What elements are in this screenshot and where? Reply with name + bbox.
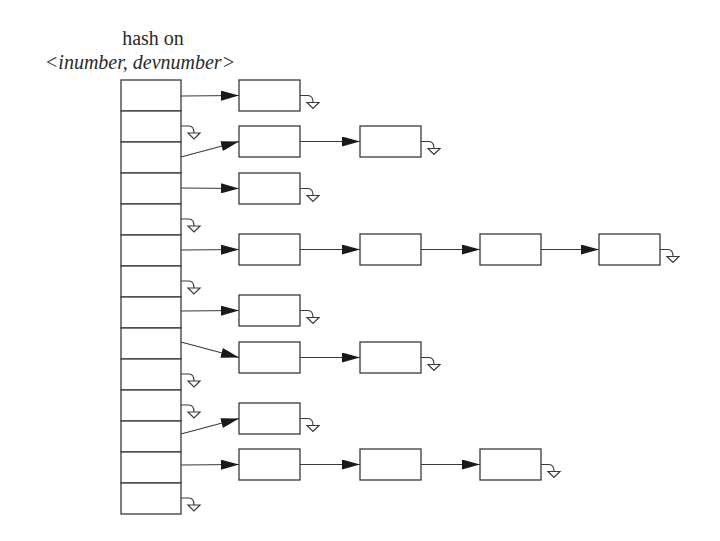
inode-node <box>480 449 541 480</box>
null-pointer-ground-icon <box>660 250 679 263</box>
null-pointer-ground-icon <box>300 189 319 202</box>
hash-bucket-slot <box>121 421 181 452</box>
inode-node <box>239 449 300 480</box>
null-pointer-ground-icon <box>421 358 440 371</box>
hash-bucket-slot <box>121 235 181 266</box>
hash-chains <box>181 80 679 480</box>
hash-bucket-slot <box>121 204 181 235</box>
inode-node <box>239 126 300 157</box>
hash-bucket-slot <box>121 111 181 142</box>
bucket-chain <box>181 295 319 326</box>
hash-bucket-slot <box>121 390 181 421</box>
hash-bucket-slot <box>121 142 181 173</box>
null-pointer-ground-icon <box>181 219 200 232</box>
inode-node <box>239 80 300 111</box>
bucket-chain <box>181 126 440 157</box>
inode-node <box>360 234 421 265</box>
hash-bucket-slot <box>121 328 181 359</box>
bucket-chain <box>181 173 319 204</box>
inode-node <box>239 295 300 326</box>
null-pointer-ground-icon <box>421 142 440 155</box>
bucket-chain <box>181 234 679 265</box>
hash-bucket-slot <box>121 80 181 111</box>
inode-node <box>239 403 300 434</box>
null-pointer-ground-icon <box>300 96 319 109</box>
hash-bucket-slot <box>121 359 181 390</box>
inode-node <box>360 342 421 373</box>
null-pointer-ground-icon <box>300 311 319 324</box>
hash-table <box>121 80 200 514</box>
bucket-chain <box>181 449 560 480</box>
hash-bucket-slot <box>121 483 181 514</box>
null-pointer-ground-icon <box>300 419 319 432</box>
bucket-chain <box>181 403 319 434</box>
hash-bucket-slot <box>121 266 181 297</box>
null-pointer-ground-icon <box>181 126 200 139</box>
null-pointer-ground-icon <box>181 374 200 387</box>
inode-node <box>360 126 421 157</box>
bucket-chain <box>181 80 319 111</box>
inode-node <box>239 342 300 373</box>
null-pointer-ground-icon <box>181 405 200 418</box>
inode-node <box>599 234 660 265</box>
inode-node <box>360 449 421 480</box>
null-pointer-ground-icon <box>181 281 200 294</box>
hash-bucket-slot <box>121 297 181 328</box>
inode-node <box>239 234 300 265</box>
bucket-chain <box>181 342 440 373</box>
inode-node <box>480 234 541 265</box>
hash-bucket-slot <box>121 452 181 483</box>
null-pointer-ground-icon <box>541 465 560 478</box>
inode-node <box>239 173 300 204</box>
hash-bucket-slot <box>121 173 181 204</box>
null-pointer-ground-icon <box>181 498 200 511</box>
hash-chain-diagram <box>0 0 720 541</box>
